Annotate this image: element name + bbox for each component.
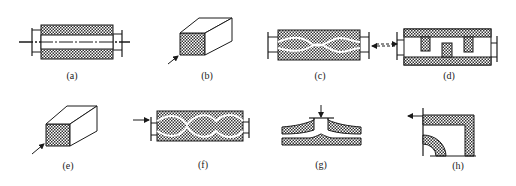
- outer-wall: [423, 115, 474, 156]
- baffle-2: [442, 43, 452, 57]
- panel-a: (a): [19, 25, 130, 82]
- panel-d: (d): [376, 29, 497, 82]
- panel-label-c: (c): [314, 70, 325, 82]
- block-front-face: [46, 124, 70, 146]
- panel-label-g: (g): [315, 159, 327, 171]
- lower-plate: [282, 134, 361, 145]
- upper-plate-right: [328, 118, 361, 134]
- panel-f: (f): [133, 111, 249, 171]
- panel-label-e: (e): [62, 160, 73, 172]
- panel-label-a: (a): [66, 70, 77, 82]
- panel-e: (e): [32, 106, 97, 172]
- top-wall: [404, 29, 491, 37]
- inlet-arrow: [32, 144, 44, 154]
- panel-c: (c): [268, 30, 395, 82]
- panel-b: (b): [168, 18, 232, 82]
- baffle-1: [421, 37, 430, 51]
- baffle-3: [464, 37, 473, 52]
- panel-g: (g): [282, 105, 361, 171]
- figure-canvas: (a) (b) (c) (d): [0, 0, 516, 186]
- bottom-wall: [404, 57, 491, 65]
- panel-label-f: (f): [198, 159, 208, 171]
- upper-plate-left: [282, 118, 314, 134]
- inlet-arrow: [168, 56, 178, 64]
- panel-label-h: (h): [452, 160, 464, 172]
- panel-h: (h): [408, 108, 476, 172]
- panel-label-b: (b): [201, 70, 213, 82]
- panel-label-d: (d): [443, 70, 455, 82]
- inner-curved-wall: [423, 135, 446, 156]
- block-front-face: [180, 33, 205, 55]
